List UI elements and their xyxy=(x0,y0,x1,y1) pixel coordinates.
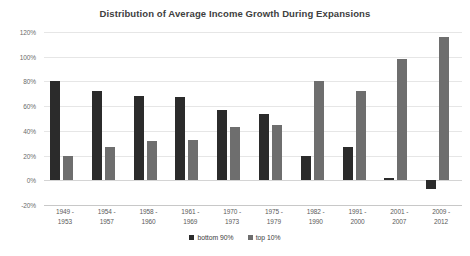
x-axis-tick-label: 1958 -1960 xyxy=(128,207,170,227)
bar-top10 xyxy=(230,127,240,180)
bar-bottom90 xyxy=(384,178,394,180)
bar-bottom90 xyxy=(134,96,144,180)
x-axis-tick-label-line: 1975 - xyxy=(253,207,295,217)
x-axis-tick-label-line: 1982 - xyxy=(295,207,337,217)
x-axis-tick-label-line: 1990 xyxy=(295,217,337,227)
x-axis-tick-label-line: 1973 xyxy=(211,217,253,227)
bar-group xyxy=(44,32,86,205)
y-axis-tick-label: 80% xyxy=(23,78,36,85)
bar-bottom90 xyxy=(343,147,353,180)
x-axis-tick-label: 1954 -1957 xyxy=(86,207,128,227)
bar-top10 xyxy=(314,81,324,180)
bar-top10 xyxy=(188,140,198,181)
x-axis-tick-label-line: 2001 - xyxy=(378,207,420,217)
bar-top10 xyxy=(147,141,157,181)
bar-group xyxy=(128,32,170,205)
x-axis-tick-label-line: 2007 xyxy=(378,217,420,227)
bar-bottom90 xyxy=(92,91,102,180)
y-axis-tick-label: -20% xyxy=(21,202,36,209)
bar-bottom90 xyxy=(175,97,185,180)
x-axis-tick-label: 1970 -1973 xyxy=(211,207,253,227)
bar-bottom90 xyxy=(217,110,227,180)
bar-top10 xyxy=(397,59,407,180)
x-axis-tick-label-line: 1991 - xyxy=(337,207,379,217)
bar-bottom90 xyxy=(301,156,311,181)
y-axis-tick-label: 40% xyxy=(23,127,36,134)
x-axis-tick-label: 2001 -2007 xyxy=(378,207,420,227)
y-axis-tick-label: 20% xyxy=(23,152,36,159)
y-axis-tick-label: 60% xyxy=(23,103,36,110)
x-axis-tick-label-line: 2000 xyxy=(337,217,379,227)
bar-top10 xyxy=(63,156,73,181)
bar-top10 xyxy=(439,37,449,180)
x-axis-tick-label-line: 2012 xyxy=(420,217,462,227)
x-axis-tick-label-line: 1954 - xyxy=(86,207,128,217)
x-axis-tick-label-line: 1949 - xyxy=(44,207,86,217)
x-axis-line xyxy=(44,205,462,206)
bar-group xyxy=(211,32,253,205)
bar-group xyxy=(86,32,128,205)
chart-legend: bottom 90%top 10% xyxy=(0,234,470,241)
x-axis-tick-label-line: 1970 - xyxy=(211,207,253,217)
bar-top10 xyxy=(356,91,366,180)
x-axis-tick-label-line: 2009 - xyxy=(420,207,462,217)
x-axis-tick-label: 2009 -2012 xyxy=(420,207,462,227)
bar-bottom90 xyxy=(50,81,60,180)
x-axis-tick-label-line: 1969 xyxy=(169,217,211,227)
x-axis-tick-label: 1949 -1953 xyxy=(44,207,86,227)
bar-group xyxy=(253,32,295,205)
x-axis-tick-label-line: 1958 - xyxy=(128,207,170,217)
bar-group xyxy=(378,32,420,205)
bar-top10 xyxy=(105,147,115,180)
chart-title: Distribution of Average Income Growth Du… xyxy=(0,8,470,19)
x-axis-tick-labels: 1949 -19531954 -19571958 -19601961 -1969… xyxy=(44,207,462,233)
bars-layer xyxy=(44,32,462,205)
chart-container: Distribution of Average Income Growth Du… xyxy=(0,0,470,256)
x-axis-tick-label-line: 1957 xyxy=(86,217,128,227)
x-axis-tick-label: 1991 -2000 xyxy=(337,207,379,227)
legend-swatch-icon xyxy=(189,235,194,240)
bar-group xyxy=(337,32,379,205)
x-axis-tick-label: 1961 -1969 xyxy=(169,207,211,227)
x-axis-tick-label: 1975 -1979 xyxy=(253,207,295,227)
y-axis-tick-label: 100% xyxy=(20,53,36,60)
bar-group xyxy=(295,32,337,205)
bar-group xyxy=(420,32,462,205)
bar-top10 xyxy=(272,125,282,181)
x-axis-tick-label-line: 1953 xyxy=(44,217,86,227)
x-axis-tick-label-line: 1960 xyxy=(128,217,170,227)
bar-bottom90 xyxy=(259,114,269,181)
plot-area xyxy=(44,32,462,205)
legend-item[interactable]: top 10% xyxy=(248,234,281,241)
y-axis-tick-label: 0% xyxy=(27,177,36,184)
bar-bottom90 xyxy=(426,180,436,189)
legend-label: top 10% xyxy=(256,234,281,241)
x-axis-tick-label: 1982 -1990 xyxy=(295,207,337,227)
legend-item[interactable]: bottom 90% xyxy=(189,234,233,241)
legend-label: bottom 90% xyxy=(197,234,233,241)
y-axis-tick-label: 120% xyxy=(20,29,36,36)
y-axis-tick-labels: 120%100%80%60%40%20%0%-20% xyxy=(0,32,40,205)
bar-group xyxy=(169,32,211,205)
legend-swatch-icon xyxy=(248,235,253,240)
x-axis-tick-label-line: 1961 - xyxy=(169,207,211,217)
x-axis-tick-label-line: 1979 xyxy=(253,217,295,227)
